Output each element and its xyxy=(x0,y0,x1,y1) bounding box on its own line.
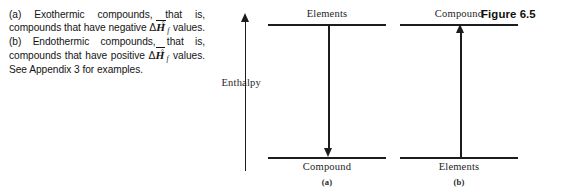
degree-glyph: ° xyxy=(162,20,165,29)
panel-b-bottom-level-label: Elements xyxy=(400,161,518,172)
panel-a-caption: (a) xyxy=(268,177,386,187)
enthalpy-axis-arrow-icon xyxy=(236,13,256,171)
panel-b-transition-arrow-up-icon xyxy=(455,24,467,158)
caption-part-a-marker: (a) xyxy=(9,9,21,20)
subscript-f-glyph: f xyxy=(166,54,168,63)
panel-a-arrow-shaft xyxy=(328,24,329,150)
energy-diagram-panel-a: Elements Compound (a) xyxy=(268,0,390,195)
panel-b-arrow-shaft xyxy=(460,33,461,158)
figure-caption: (a) Exothermic compounds, that is, compo… xyxy=(9,8,205,76)
subscript-f-glyph: f xyxy=(167,26,169,35)
panel-a-arrowhead-icon xyxy=(324,148,332,157)
caption-part-a-tail: values. xyxy=(170,22,205,33)
caption-part-b-marker: (b) xyxy=(9,36,21,47)
panel-b-arrowhead-icon xyxy=(456,24,464,33)
panel-a-transition-arrow-down-icon xyxy=(323,24,335,158)
energy-diagram-panel-b: Compound Elements (b) xyxy=(400,0,522,195)
panel-a-bottom-level-label: Compound xyxy=(268,161,386,172)
delta-glyph: Δ xyxy=(149,50,156,61)
panel-b-bottom-level-line xyxy=(400,157,518,159)
degree-glyph: ° xyxy=(161,48,164,57)
figure-number-label: Figure 6.5 xyxy=(481,8,536,20)
axis-shaft xyxy=(245,20,246,171)
caption-part-b-tail: values. xyxy=(169,50,205,61)
panel-b-caption: (b) xyxy=(400,177,518,187)
enthalpy-formation-symbol: ΔH°f xyxy=(149,21,170,35)
panel-a-top-level-label: Elements xyxy=(268,8,386,19)
caption-closing-text: See Appendix 3 for examples. xyxy=(9,64,143,75)
enthalpy-formation-symbol-b: ΔH°f xyxy=(149,49,170,63)
panel-a-bottom-level-line xyxy=(268,157,386,159)
